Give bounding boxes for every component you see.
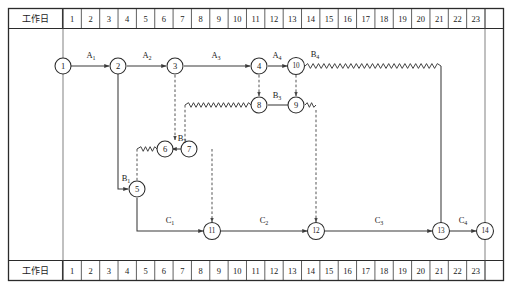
activity-label-b4: B4 — [311, 49, 320, 60]
day-number-13: 13 — [288, 14, 297, 24]
node-12[interactable]: 12 — [308, 223, 325, 240]
day-number-17: 17 — [361, 266, 370, 276]
activity-edge-b4 — [305, 64, 441, 231]
day-number-9: 9 — [217, 266, 221, 276]
node-2-label: 2 — [116, 61, 120, 71]
activity-label-a2: A2 — [142, 50, 151, 61]
node-8[interactable]: 8 — [251, 97, 267, 113]
day-number-11: 11 — [252, 14, 260, 24]
node-9-label: 9 — [294, 100, 298, 110]
day-number-23: 23 — [472, 266, 481, 276]
day-number-4: 4 — [125, 266, 130, 276]
day-number-21: 21 — [435, 266, 444, 276]
node-14-label: 14 — [481, 227, 489, 235]
day-number-1: 1 — [70, 14, 74, 24]
day-number-12: 12 — [270, 266, 279, 276]
node-2[interactable]: 2 — [110, 58, 126, 74]
day-number-12: 12 — [270, 14, 279, 24]
day-number-6: 6 — [162, 14, 166, 24]
day-number-5: 5 — [143, 266, 147, 276]
node-8-label: 8 — [257, 100, 261, 110]
node-1-label: 1 — [61, 61, 65, 71]
activity-label-c2: C2 — [260, 215, 269, 226]
day-number-8: 8 — [198, 14, 202, 24]
day-number-16: 16 — [343, 266, 352, 276]
node-6[interactable]: 6 — [157, 141, 173, 157]
activity-label-a1: A1 — [86, 50, 95, 61]
activity-label-c1: C1 — [166, 215, 175, 226]
node-13-label: 13 — [437, 227, 445, 235]
day-number-1: 1 — [70, 266, 74, 276]
node-3-label: 3 — [173, 61, 177, 71]
top-day-number-row: 1234567891011121314151617181920212223 — [70, 14, 480, 24]
activity-label-c4: C4 — [459, 215, 468, 226]
day-number-2: 2 — [88, 266, 92, 276]
activity-label-a4: A4 — [272, 50, 281, 61]
diagram-outer-frame — [9, 9, 504, 281]
day-number-23: 23 — [472, 14, 481, 24]
day-number-3: 3 — [107, 266, 111, 276]
bottom-day-number-row: 1234567891011121314151617181920212223 — [70, 266, 480, 276]
day-number-18: 18 — [380, 266, 389, 276]
day-number-5: 5 — [143, 14, 147, 24]
float-link-9-12 — [305, 103, 316, 222]
day-number-19: 19 — [398, 266, 407, 276]
day-number-7: 7 — [180, 14, 184, 24]
day-number-15: 15 — [325, 266, 334, 276]
day-number-14: 14 — [306, 266, 315, 276]
node-11-label: 11 — [209, 227, 216, 235]
activity-label-b1: B1 — [122, 173, 131, 184]
network-diagram-figure: 1234567891011121314151617181920212223 12… — [0, 0, 514, 290]
node-3[interactable]: 3 — [167, 58, 183, 74]
time-scaled-network-svg: 1234567891011121314151617181920212223 12… — [0, 0, 514, 290]
node-1[interactable]: 1 — [55, 58, 71, 74]
day-number-10: 10 — [233, 14, 242, 24]
day-number-4: 4 — [125, 14, 130, 24]
day-number-20: 20 — [417, 14, 426, 24]
day-number-8: 8 — [198, 266, 202, 276]
activity-label-a3: A3 — [211, 50, 220, 61]
day-number-21: 21 — [435, 14, 444, 24]
node-10[interactable]: 10 — [288, 58, 305, 75]
activity-label-b3: B3 — [273, 90, 282, 101]
day-number-6: 6 — [162, 266, 166, 276]
day-number-19: 19 — [398, 14, 407, 24]
day-number-16: 16 — [343, 14, 352, 24]
node-9[interactable]: 9 — [288, 97, 304, 113]
day-number-18: 18 — [380, 14, 389, 24]
day-number-14: 14 — [306, 14, 315, 24]
node-13[interactable]: 13 — [433, 223, 450, 240]
activity-label-c3: C3 — [375, 215, 384, 226]
day-number-9: 9 — [217, 14, 221, 24]
day-number-20: 20 — [417, 266, 426, 276]
node-5-label: 5 — [135, 184, 139, 194]
day-number-22: 22 — [453, 14, 462, 24]
node-5[interactable]: 5 — [129, 181, 145, 197]
day-number-22: 22 — [453, 266, 462, 276]
node-4[interactable]: 4 — [251, 58, 267, 74]
node-14[interactable]: 14 — [477, 223, 494, 240]
day-number-3: 3 — [107, 14, 111, 24]
node-7-label: 7 — [187, 144, 191, 154]
day-number-13: 13 — [288, 266, 297, 276]
top-axis-caption: 工作日 — [22, 13, 49, 24]
bottom-axis-caption: 工作日 — [22, 265, 49, 276]
day-number-2: 2 — [88, 14, 92, 24]
day-number-17: 17 — [361, 14, 370, 24]
day-number-11: 11 — [252, 266, 260, 276]
node-6-label: 6 — [163, 144, 167, 154]
node-10-label: 10 — [292, 62, 300, 70]
node-11[interactable]: 11 — [204, 223, 221, 240]
node-12-label: 12 — [312, 227, 320, 235]
day-number-15: 15 — [325, 14, 334, 24]
day-number-10: 10 — [233, 266, 242, 276]
day-number-7: 7 — [180, 266, 184, 276]
activity-edge-b1 — [118, 74, 128, 189]
